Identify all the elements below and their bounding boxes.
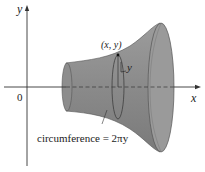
radius-label: y	[126, 61, 132, 73]
right-end-cap	[148, 23, 174, 152]
y-axis	[25, 5, 29, 166]
point-marker	[117, 54, 120, 57]
x-axis-label: x	[190, 91, 197, 105]
circumference-label: circumference = 2πy	[37, 132, 129, 144]
surface-of-revolution-diagram: y x 0 (x, y) y circumference = 2πy	[0, 0, 205, 172]
y-axis-label: y	[16, 2, 23, 16]
point-label: (x, y)	[101, 39, 122, 51]
origin-label: 0	[17, 91, 23, 103]
